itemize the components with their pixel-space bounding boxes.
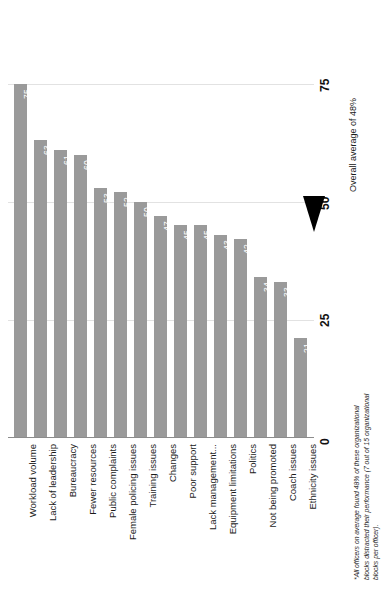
bar-value-label: 45: [181, 230, 194, 240]
bar[interactable]: 63: [34, 140, 47, 437]
bar[interactable]: 50: [134, 202, 147, 437]
bar[interactable]: 21: [294, 338, 307, 437]
bar-value-label: 52: [121, 197, 134, 207]
category-label: Coach issues: [286, 444, 299, 584]
average-pointer-icon: [303, 196, 325, 232]
bar-value-label: 47: [161, 221, 174, 231]
bar-value-label: 45: [201, 230, 214, 240]
category-label: Equipment limitations: [226, 444, 239, 584]
category-label: Public complaints: [106, 444, 119, 584]
category-label: Bureaucracy: [66, 444, 79, 584]
bar-value-label: 50: [141, 207, 154, 217]
bar[interactable]: 34: [254, 277, 267, 437]
bar[interactable]: 61: [54, 150, 67, 437]
bar[interactable]: 45: [194, 225, 207, 437]
category-label: Female policing issues: [126, 444, 139, 584]
bar-value-label: 34: [261, 282, 274, 292]
bar-value-label: 33: [281, 287, 294, 297]
bar[interactable]: 33: [274, 282, 287, 437]
category-label: Ethnicity issues: [306, 444, 319, 584]
bar-value-label: 61: [61, 155, 74, 165]
bar-value-label: 21: [301, 343, 314, 353]
bar-value-label: 63: [41, 146, 54, 156]
axis-baseline-0: [8, 437, 314, 438]
bar[interactable]: 53: [94, 188, 107, 437]
bar[interactable]: 42: [234, 239, 247, 437]
category-label: Training issues: [146, 444, 159, 584]
bar-value-label: 75: [21, 89, 34, 99]
bar-value-label: 43: [221, 240, 234, 250]
bar[interactable]: 43: [214, 235, 227, 437]
chart-footnote: *All officers on average found 48% of th…: [352, 390, 381, 580]
bar[interactable]: 75: [14, 84, 27, 437]
bar[interactable]: 60: [74, 155, 87, 437]
category-label: Politics: [246, 444, 259, 584]
category-label: Not being promoted: [266, 444, 279, 584]
plot-area: 756361605352504745454342343321 Workload …: [0, 0, 340, 590]
bar[interactable]: 45: [174, 225, 187, 437]
category-label: Poor support: [186, 444, 199, 584]
axis-tick-75: 75: [318, 79, 332, 92]
bar-value-label: 60: [81, 160, 94, 170]
axis-tick-0: 0: [318, 438, 332, 445]
category-label: Changes: [166, 444, 179, 584]
gridline-75: [8, 84, 314, 85]
category-label: Lack management...: [206, 444, 219, 584]
category-label: Lack of leadership: [46, 444, 59, 584]
bar[interactable]: 52: [114, 192, 127, 437]
axis-tick-25: 25: [318, 314, 332, 327]
average-annotation-label: Overall average of 48%: [348, 98, 358, 192]
bar-value-label: 53: [101, 193, 114, 203]
bar[interactable]: 47: [154, 216, 167, 437]
category-label: Workload volume: [26, 444, 39, 584]
bar-value-label: 42: [241, 244, 254, 254]
category-label: Fewer resources: [86, 444, 99, 584]
